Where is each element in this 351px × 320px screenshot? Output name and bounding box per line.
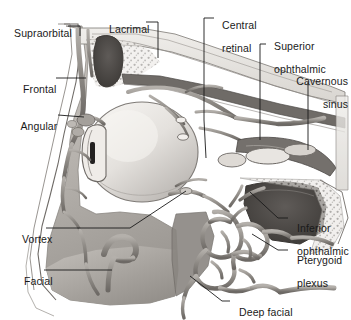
- label-lacrimal-text: Lacrimal: [109, 23, 149, 35]
- label-angular: Angular: [15, 109, 57, 132]
- anatomy-figure: Supraorbital Lacrimal Central retinal Su…: [0, 0, 351, 320]
- label-frontal-text: Frontal: [23, 83, 56, 95]
- label-inferior-ophthalmic-line1: Inferior: [297, 222, 330, 234]
- label-central-retinal: Central retinal: [216, 8, 257, 54]
- label-supraorbital-text: Supraorbital: [14, 27, 72, 39]
- label-deep-facial: Deep facial: [233, 295, 293, 318]
- label-vortex: Vortex: [16, 222, 52, 245]
- label-central-retinal-line2: retinal: [222, 42, 251, 54]
- label-pterygoid-plexus-line1: Pterygoid: [297, 254, 342, 266]
- label-cavernous-sinus: Cavernous sinus: [265, 64, 348, 110]
- label-supraorbital: Supraorbital: [8, 16, 72, 39]
- label-pterygoid-plexus: Pterygoid plexus: [291, 243, 342, 289]
- label-central-retinal-line1: Central: [222, 19, 257, 31]
- label-cavernous-sinus-line2: sinus: [323, 98, 348, 110]
- label-deep-facial-text: Deep facial: [239, 306, 293, 318]
- label-facial-text: Facial: [24, 275, 53, 287]
- label-vortex-text: Vortex: [22, 233, 52, 245]
- label-superior-ophthalmic-line1: Superior: [274, 40, 315, 52]
- label-angular-text: Angular: [20, 120, 57, 132]
- label-cavernous-sinus-line1: Cavernous: [296, 75, 348, 87]
- label-frontal: Frontal: [17, 72, 56, 95]
- cornea-lens: [82, 125, 106, 182]
- label-facial: Facial: [18, 264, 53, 287]
- label-pterygoid-plexus-line2: plexus: [297, 277, 328, 289]
- label-lacrimal: Lacrimal: [103, 12, 150, 35]
